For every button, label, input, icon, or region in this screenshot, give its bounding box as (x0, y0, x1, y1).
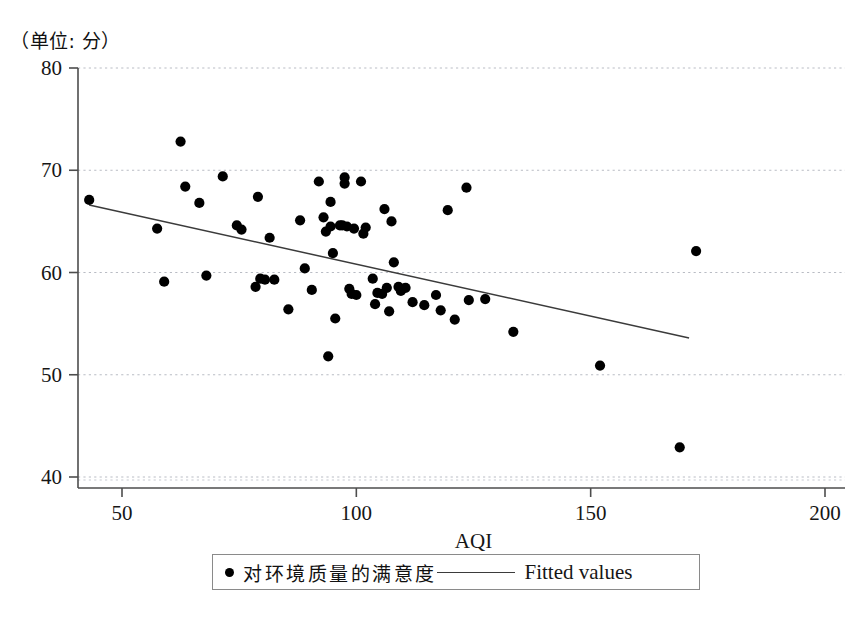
scatter-point (480, 294, 490, 304)
scatter-point (356, 176, 366, 186)
scatter-point (323, 351, 333, 361)
scatter-point (218, 171, 228, 181)
scatter-point (461, 183, 471, 193)
y-tick-label-70: 70 (41, 158, 62, 182)
scatter-point (328, 248, 338, 258)
scatter-point (370, 299, 380, 309)
scatter-point (436, 305, 446, 315)
legend: 对环境质量的满意度 Fitted values (212, 554, 700, 590)
x-axis-title: AQI (455, 529, 492, 553)
legend-entry-fit: Fitted values (437, 560, 633, 585)
legend-entry-scatter: 对环境质量的满意度 (225, 559, 437, 586)
x-tick-label-200: 200 (809, 501, 841, 525)
scatter-point (450, 314, 460, 324)
scatter-point (180, 182, 190, 192)
scatter-point (443, 205, 453, 215)
scatter-point (508, 327, 518, 337)
y-tick-group: 4050607080 (41, 56, 78, 489)
scatter-point (382, 283, 392, 293)
scatter-point (307, 285, 317, 295)
scatter-point (253, 192, 263, 202)
scatter-point (330, 313, 340, 323)
scatter-point (283, 304, 293, 314)
scatter-plot-svg: 4050607080 50100150200 AQI (0, 0, 861, 626)
scatter-point (152, 223, 162, 233)
gridlines-group (78, 68, 845, 480)
y-tick-label-50: 50 (41, 363, 62, 387)
scatter-point (236, 224, 246, 234)
legend-label-scatter: 对环境质量的满意度 (243, 559, 437, 586)
scatter-point (260, 275, 270, 285)
scatter-point (691, 246, 701, 256)
x-tick-label-150: 150 (575, 501, 607, 525)
legend-label-fit: Fitted values (525, 560, 633, 585)
scatter-point (269, 275, 279, 285)
scatter-point (351, 290, 361, 300)
scatter-point (419, 300, 429, 310)
scatter-point (325, 197, 335, 207)
x-tick-label-100: 100 (341, 501, 373, 525)
scatter-point (295, 215, 305, 225)
scatter-point (389, 257, 399, 267)
y-tick-label-60: 60 (41, 261, 62, 285)
scatter-point (407, 297, 417, 307)
scatter-point (464, 295, 474, 305)
scatter-point (675, 442, 685, 452)
scatter-point (194, 198, 204, 208)
axis-lines-group (78, 68, 845, 488)
x-tick-group: 50100150200 (112, 488, 841, 525)
x-tick-label-50: 50 (112, 501, 133, 525)
y-tick-label-80: 80 (41, 56, 62, 80)
filled-circle-icon (225, 568, 234, 577)
scatter-point (400, 283, 410, 293)
figure-container: （单位: 分） 4050607080 50100150200 AQI 对环境质量… (0, 0, 861, 626)
scatter-point (159, 277, 169, 287)
scatter-point (384, 306, 394, 316)
scatter-point (431, 290, 441, 300)
scatter-point (265, 233, 275, 243)
scatter-points-group (84, 137, 701, 453)
scatter-point (318, 212, 328, 222)
scatter-point (325, 221, 335, 231)
scatter-point (368, 274, 378, 284)
solid-line-icon (437, 572, 515, 573)
scatter-point (361, 222, 371, 232)
scatter-point (595, 360, 605, 370)
y-tick-label-40: 40 (41, 465, 62, 489)
scatter-point (300, 263, 310, 273)
scatter-point (201, 270, 211, 280)
scatter-point (349, 223, 359, 233)
scatter-point (314, 176, 324, 186)
scatter-point (386, 216, 396, 226)
scatter-point (175, 137, 185, 147)
scatter-point (84, 195, 94, 205)
scatter-point (340, 178, 350, 188)
scatter-point (379, 204, 389, 214)
